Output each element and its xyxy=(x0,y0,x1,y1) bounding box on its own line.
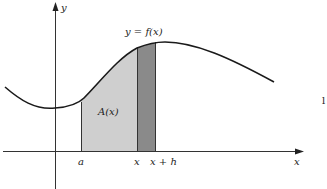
area-function-diagram: y x y = f(x) A(x) a x x + h l xyxy=(0,0,327,189)
area-label: A(x) xyxy=(97,106,119,117)
y-axis-arrow-icon xyxy=(53,2,59,11)
x-axis-arrow-icon xyxy=(295,149,304,155)
tick-label-x: x xyxy=(134,156,140,167)
strip-region xyxy=(137,0,155,151)
tick-label-x-plus-h: x + h xyxy=(150,156,177,167)
x-axis-label: x xyxy=(294,156,300,167)
y-axis-label: y xyxy=(60,2,67,13)
area-region xyxy=(81,0,137,151)
margin-mark: l xyxy=(322,95,325,106)
curve-label: y = f(x) xyxy=(124,26,163,37)
tick-label-a: a xyxy=(78,156,84,167)
